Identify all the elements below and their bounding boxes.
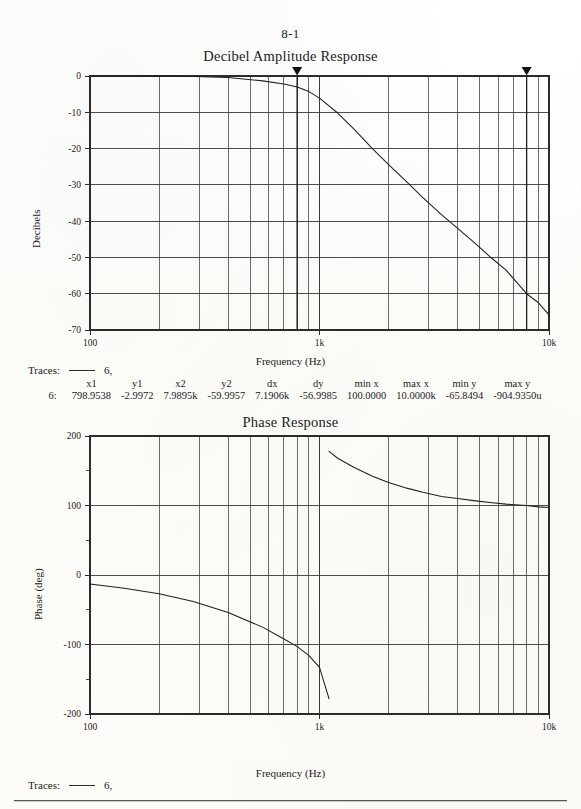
cursor-table-header-row: x1y1x2y2dxdymin xmax xmin ymax y: [35, 378, 547, 390]
phase-trace-name: 6,: [104, 779, 112, 791]
cursor-table-header-dx: dx: [250, 378, 294, 390]
cursor-table-header-x2: x2: [158, 378, 202, 390]
y-tick-label: -10: [68, 108, 81, 118]
y-tick-label: -60: [68, 289, 81, 299]
cursor-table-header-max-x: max x: [391, 378, 440, 390]
cursor-table-header-dy: dy: [294, 378, 342, 390]
cursor-cell-min-x: 100.0000: [342, 390, 391, 401]
y-tick-label: 0: [76, 570, 81, 580]
y-tick-label: -70: [68, 325, 81, 335]
amplitude-traces-legend: Traces: 6,: [28, 364, 112, 376]
cursor-cell-dy: -56.9985: [294, 390, 342, 401]
data-trace: [329, 451, 549, 507]
amplitude-plot: 0-10-20-30-40-50-60-701001k10k: [0, 0, 581, 370]
cursor-readout-table: x1y1x2y2dxdymin xmax xmin ymax y 6:798.9…: [0, 378, 581, 401]
y-tick-label: -20: [68, 144, 81, 154]
cursor-cell-min-y: -65.8494: [441, 390, 489, 401]
cursor-cell-x1: 798.9538: [67, 390, 116, 401]
x-tick-label: 1k: [315, 722, 325, 732]
phase-plot: 2001000-100-2001001k10k: [0, 414, 581, 754]
cursor-cell-dx: 7.1906k: [250, 390, 294, 401]
y-tick-label: -200: [64, 709, 82, 719]
x-tick-label: 1k: [315, 338, 325, 348]
y-tick-label: -30: [68, 180, 81, 190]
plot-grid-group: [90, 76, 549, 330]
cursor-cell-label: 6:: [35, 390, 67, 401]
cursor-cell-max-x: 10.0000k: [391, 390, 440, 401]
cursor-cell-y2: -59.9957: [203, 390, 251, 401]
y-tick-label: 0: [76, 71, 81, 81]
cursor-table-row: 6:798.9538-2.99727.9895k-59.99577.1906k-…: [35, 390, 547, 401]
phase-x-axis-label: Frequency (Hz): [0, 767, 581, 779]
y-tick-label: -100: [64, 640, 82, 650]
cursor-marker-2[interactable]: [522, 67, 532, 76]
phase-trace-line-swatch: [69, 785, 95, 786]
cursor-cell-x2: 7.9895k: [158, 390, 202, 401]
plot-grid-group: [90, 436, 549, 714]
cursor-table-body: 6:798.9538-2.99727.9895k-59.99577.1906k-…: [35, 390, 547, 401]
footer-divider: [14, 800, 567, 801]
y-tick-label: -50: [68, 253, 81, 263]
cursor-table-header-y2: y2: [203, 378, 251, 390]
data-trace: [90, 584, 329, 699]
x-tick-label: 100: [83, 722, 98, 732]
cursor-table-element: x1y1x2y2dxdymin xmax xmin ymax y 6:798.9…: [35, 378, 547, 401]
cursor-cell-max-y: -904.9350u: [488, 390, 546, 401]
y-tick-label: 200: [67, 431, 82, 441]
cursor-table-header-row-label: [35, 378, 67, 390]
x-tick-label: 100: [83, 338, 98, 348]
y-tick-label: 100: [67, 501, 82, 511]
cursor-cell-y1: -2.9972: [116, 390, 158, 401]
amplitude-traces-label: Traces:: [28, 364, 60, 376]
phase-y-axis-label: Phase (deg): [32, 568, 44, 620]
cursor-table-header-y1: y1: [116, 378, 158, 390]
x-tick-label: 10k: [542, 338, 557, 348]
cursor-table-header-min-x: min x: [342, 378, 391, 390]
cursor-table-header-x1: x1: [67, 378, 116, 390]
report-page: 8-1 Decibel Amplitude Response 0-10-20-3…: [0, 0, 581, 809]
amplitude-plot-canvas: 0-10-20-30-40-50-60-701001k10k: [0, 0, 581, 370]
phase-traces-label: Traces:: [28, 779, 60, 791]
cursor-marker-1[interactable]: [292, 67, 302, 76]
phase-traces-legend: Traces: 6,: [28, 779, 112, 791]
phase-plot-canvas: 2001000-100-2001001k10k: [0, 414, 581, 754]
x-tick-label: 10k: [542, 722, 557, 732]
cursor-table-header-min-y: min y: [441, 378, 489, 390]
amplitude-trace-name: 6,: [104, 364, 112, 376]
amplitude-trace-line-swatch: [69, 370, 95, 371]
amplitude-y-axis-label: Decibels: [30, 210, 42, 248]
y-tick-label: -40: [68, 217, 81, 227]
cursor-table-header-max-y: max y: [488, 378, 546, 390]
